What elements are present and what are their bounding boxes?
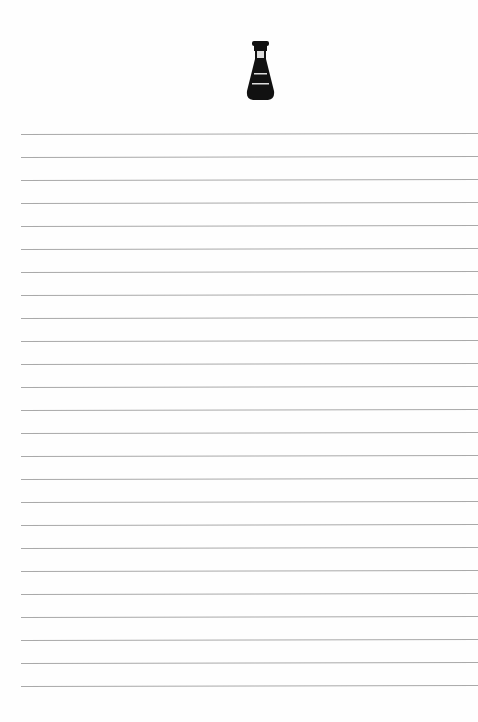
ruled-lines xyxy=(0,0,478,722)
ruled-line xyxy=(21,662,478,664)
ruled-line xyxy=(21,685,478,687)
ruled-line xyxy=(21,593,478,595)
ruled-line xyxy=(21,202,478,204)
ruled-line xyxy=(21,547,478,549)
ruled-line xyxy=(21,363,478,365)
ruled-line xyxy=(21,524,478,526)
ruled-line xyxy=(21,133,478,135)
ruled-line xyxy=(21,455,478,457)
ruled-line xyxy=(21,570,478,572)
ruled-line xyxy=(21,386,478,388)
ruled-line xyxy=(21,248,478,250)
ruled-line xyxy=(21,340,478,342)
ruled-line xyxy=(21,225,478,227)
ruled-line xyxy=(21,432,478,434)
notepaper xyxy=(0,0,478,722)
ruled-line xyxy=(21,156,478,158)
ruled-line xyxy=(21,639,478,641)
ruled-line xyxy=(21,317,478,319)
ruled-line xyxy=(21,501,478,503)
ruled-line xyxy=(21,271,478,273)
ruled-line xyxy=(21,179,478,181)
ruled-line xyxy=(21,616,478,618)
ruled-line xyxy=(21,409,478,411)
ruled-line xyxy=(21,294,478,296)
ruled-line xyxy=(21,478,478,480)
